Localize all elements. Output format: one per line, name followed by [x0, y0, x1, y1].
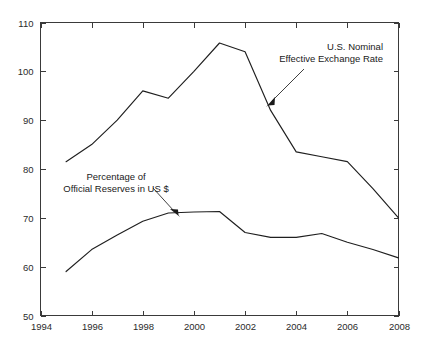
- x-tick-label-1998: 1998: [133, 321, 154, 332]
- y-axis-labels: 5060708090100110: [18, 18, 34, 322]
- x-tick-label-2004: 2004: [286, 321, 307, 332]
- exchange-rate-annotation-line2: Effective Exchange Rate: [279, 53, 383, 64]
- y-tick-label-100: 100: [18, 66, 34, 77]
- exchange-rate-annotation: U.S. Nominal Effective Exchange Rate: [266, 41, 383, 107]
- x-tick-label-2006: 2006: [337, 321, 358, 332]
- x-tick-label-2008: 2008: [389, 321, 410, 332]
- x-tick-label-1996: 1996: [82, 321, 103, 332]
- exchange-rate-annotation-line1: U.S. Nominal: [327, 41, 383, 52]
- x-tick-label-2000: 2000: [184, 321, 205, 332]
- reserves-annotation: Percentage of Official Reserves in US $: [63, 171, 180, 217]
- reserves-annotation-line1: Percentage of: [86, 171, 146, 182]
- y-tick-label-70: 70: [23, 213, 34, 224]
- y-tick-label-110: 110: [18, 18, 33, 29]
- chart-container: 5060708090100110 19941996199820002002200…: [0, 0, 422, 349]
- x-axis-labels: 19941996199820002002200420062008: [31, 321, 410, 332]
- exchange-rate-leader-line: [272, 69, 304, 101]
- x-tick-label-2002: 2002: [235, 321, 256, 332]
- x-tick-label-1994: 1994: [31, 321, 52, 332]
- y-tick-label-90: 90: [23, 115, 34, 126]
- x-axis-ticks: [42, 23, 400, 316]
- y-tick-label-60: 60: [23, 262, 34, 273]
- y-tick-label-80: 80: [23, 164, 34, 175]
- plot-frame: [41, 23, 399, 316]
- series-group: [66, 43, 398, 272]
- series-line-reserves: [66, 211, 398, 271]
- line-chart: 5060708090100110 19941996199820002002200…: [0, 0, 422, 349]
- y-axis-ticks: [41, 24, 399, 317]
